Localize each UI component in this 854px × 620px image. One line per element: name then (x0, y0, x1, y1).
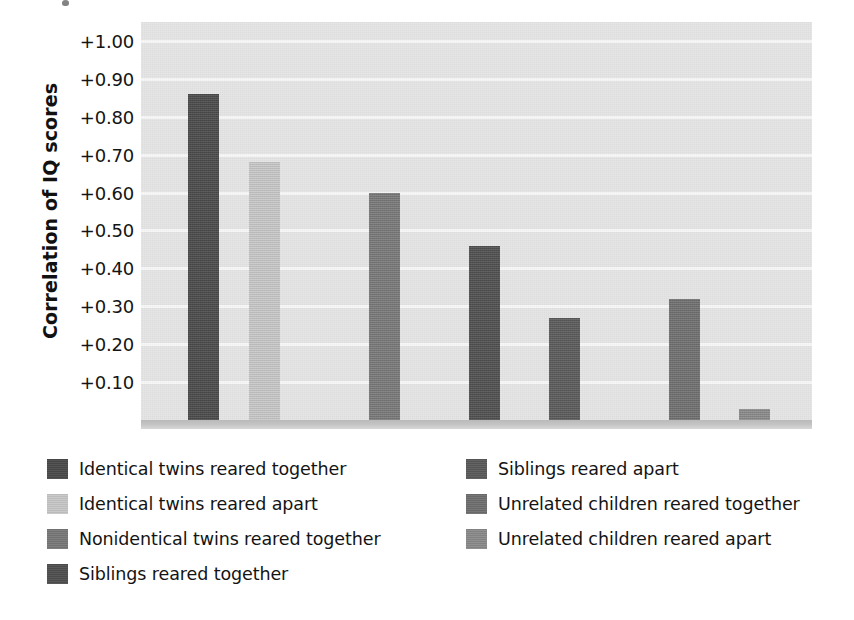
legend-item-label: Identical twins reared apart (79, 494, 318, 514)
y-tick-label: +0.50 (80, 220, 134, 241)
gridline (141, 78, 812, 81)
y-tick-label: +0.30 (80, 296, 134, 317)
legend-item-label: Unrelated children reared together (498, 494, 800, 514)
y-tick-label: +0.60 (80, 182, 134, 203)
legend-item-label: Unrelated children reared apart (498, 529, 771, 549)
legend-swatch-icon (47, 564, 68, 584)
bar (549, 318, 580, 420)
legend-swatch-icon (466, 494, 487, 514)
bar (369, 193, 400, 420)
legend-item-label: Nonidentical twins reared together (79, 529, 381, 549)
bar (188, 94, 219, 420)
legend-item-label: Siblings reared apart (498, 459, 679, 479)
gridline (141, 40, 812, 43)
legend-swatch-icon (47, 529, 68, 549)
gridline (141, 116, 812, 119)
bar (469, 246, 500, 420)
y-tick-label: +0.20 (80, 334, 134, 355)
legend-swatch-icon (47, 494, 68, 514)
y-tick-label: +0.10 (80, 372, 134, 393)
legend-item[interactable]: Unrelated children reared apart (466, 523, 800, 555)
y-axis-title: Correlation of IQ scores (39, 11, 61, 411)
legend-item[interactable]: Siblings reared together (47, 558, 381, 590)
y-tick-label: +0.70 (80, 144, 134, 165)
legend-item[interactable]: Identical twins reared together (47, 453, 381, 485)
y-tick-label: +0.40 (80, 258, 134, 279)
chart-legend: Identical twins reared togetherIdentical… (0, 445, 854, 620)
legend-column-left: Identical twins reared togetherIdentical… (47, 453, 381, 593)
iq-correlation-bar-chart: Correlation of IQ scores +1.00+0.90+0.80… (0, 0, 854, 445)
legend-swatch-icon (466, 529, 487, 549)
y-tick-label: +0.80 (80, 106, 134, 127)
legend-swatch-icon (47, 459, 68, 479)
bar (669, 299, 700, 420)
legend-item[interactable]: Unrelated children reared together (466, 488, 800, 520)
legend-item[interactable]: Identical twins reared apart (47, 488, 381, 520)
x-axis-baseline (141, 420, 812, 429)
legend-item-label: Siblings reared together (79, 564, 288, 584)
legend-swatch-icon (466, 459, 487, 479)
legend-item[interactable]: Siblings reared apart (466, 453, 800, 485)
y-tick-label: +1.00 (80, 30, 134, 51)
legend-item-label: Identical twins reared together (79, 459, 346, 479)
plot-area (141, 22, 812, 420)
bar (739, 409, 770, 420)
gridline (141, 154, 812, 157)
gridline (141, 229, 812, 232)
gridline (141, 192, 812, 195)
legend-column-right: Siblings reared apartUnrelated children … (466, 453, 800, 558)
legend-item[interactable]: Nonidentical twins reared together (47, 523, 381, 555)
y-axis-tick-labels: +1.00+0.90+0.80+0.70+0.60+0.50+0.40+0.30… (60, 22, 138, 422)
y-tick-label: +0.90 (80, 68, 134, 89)
bar (249, 162, 280, 420)
